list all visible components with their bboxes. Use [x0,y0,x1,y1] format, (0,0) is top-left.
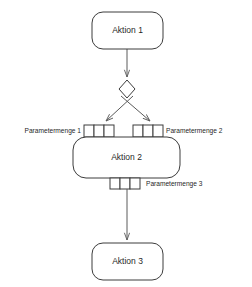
node-aktion-2[interactable]: Aktion 2 [73,137,180,178]
parameter-set-parametermenge-2[interactable] [133,125,163,137]
param-cell[interactable] [84,125,94,137]
parameter-set-parametermenge-1[interactable] [84,125,114,137]
node-aktion-3[interactable]: Aktion 3 [92,243,163,280]
node-aktion-3-label: Aktion 3 [112,256,143,266]
diagram-canvas: Aktion 1 Aktion 2 [0,0,252,287]
parametermenge-2-label: Parametermenge 2 [166,127,223,135]
connector-decision-to-parametermenge-2 [121,96,150,121]
node-aktion-1[interactable]: Aktion 1 [92,12,163,49]
node-aktion-2-label: Aktion 2 [111,152,142,162]
param-cell[interactable] [104,125,114,137]
parameter-set-parametermenge-3[interactable] [110,178,140,189]
connector-decision-to-parametermenge-1 [106,96,133,121]
param-cell[interactable] [94,125,104,137]
param-cell[interactable] [153,125,163,137]
parametermenge-1-label: Parametermenge 1 [25,127,82,135]
node-aktion-1-label: Aktion 1 [112,25,143,35]
param-cell[interactable] [130,178,140,189]
param-cell[interactable] [143,125,153,137]
parametermenge-3-label: Parametermenge 3 [146,180,203,188]
diagram-svg: Aktion 1 Aktion 2 [0,0,252,287]
param-cell[interactable] [133,125,143,137]
decision-diamond[interactable] [119,80,135,98]
param-cell[interactable] [120,178,130,189]
param-cell[interactable] [110,178,120,189]
